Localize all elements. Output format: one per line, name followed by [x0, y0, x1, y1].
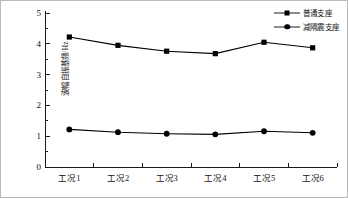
x-tick-label: 工况2: [107, 174, 129, 183]
x-tick-label: 工况6: [302, 174, 324, 183]
y-axis-label: 波幅自振基频/Hz: [59, 9, 70, 129]
x-tick-label: 工况3: [156, 174, 178, 183]
legend-label-1: 减隔震支座: [303, 21, 339, 32]
legend-item-1: 减隔震支座: [274, 21, 339, 32]
y-tick-label: 4: [37, 39, 42, 48]
legend-item-0: 普通支座: [274, 7, 339, 18]
x-tick-label: 工况4: [204, 174, 226, 183]
y-tick-label: 3: [37, 70, 42, 79]
chart-figure: 波幅自振基频/Hz 012345 工况1工况2工况3工况4工况5工况6 普通支座…: [0, 0, 348, 198]
legend-marker-square-icon: [274, 8, 300, 17]
y-tick-label: 2: [37, 101, 42, 110]
y-tick-label: 1: [37, 132, 42, 141]
y-tick-label: 0: [37, 163, 42, 172]
chart-legend: 普通支座 减隔震支座: [274, 7, 339, 32]
x-tick-label: 工况5: [253, 174, 275, 183]
plot-area: 波幅自振基频/Hz 012345 工况1工况2工况3工况4工况5工况6: [45, 13, 337, 167]
x-tick-label: 工况1: [58, 174, 80, 183]
y-tick-label: 5: [37, 9, 42, 18]
legend-label-0: 普通支座: [303, 7, 332, 18]
legend-marker-circle-icon: [274, 22, 300, 31]
